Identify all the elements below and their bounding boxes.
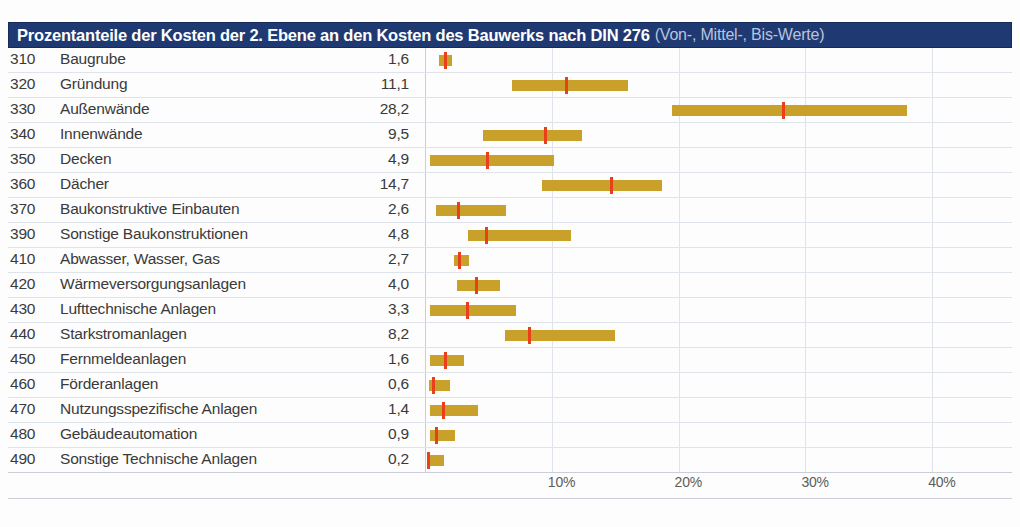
- table-row[interactable]: 330Außenwände28,2: [8, 98, 1012, 123]
- row-code: 430: [10, 300, 52, 318]
- range-bar: [672, 105, 907, 116]
- gridline-zero: [425, 73, 426, 97]
- row-code: 460: [10, 375, 52, 393]
- gridline-40: [932, 448, 933, 472]
- mean-marker: [610, 177, 613, 194]
- gridline-zero: [425, 123, 426, 147]
- table-row[interactable]: 390Sonstige Baukonstruktionen4,8: [8, 223, 1012, 248]
- table-row[interactable]: 310Baugrube1,6: [8, 48, 1012, 73]
- table-row[interactable]: 470Nutzungsspezifische Anlagen1,4: [8, 398, 1012, 423]
- table-row[interactable]: 430Lufttechnische Anlagen3,3: [8, 298, 1012, 323]
- gridline-10: [552, 398, 553, 422]
- row-code: 310: [10, 50, 52, 68]
- row-value: 0,2: [308, 450, 409, 468]
- row-plot-cell: [417, 448, 1012, 472]
- table-row[interactable]: 460Förderanlagen0,6: [8, 373, 1012, 398]
- gridline-10: [552, 98, 553, 122]
- table-row[interactable]: 480Gebäudeautomation0,9: [8, 423, 1012, 448]
- range-bar: [468, 230, 571, 241]
- mean-marker: [458, 252, 461, 269]
- gridline-zero: [425, 198, 426, 222]
- row-plot-cell: [417, 273, 1012, 297]
- row-value: 1,6: [308, 350, 409, 368]
- x-tick-label-10: 10%: [548, 474, 575, 490]
- row-value: 2,6: [308, 200, 409, 218]
- gridline-30: [805, 298, 806, 322]
- mean-marker: [432, 377, 435, 394]
- mean-marker: [442, 402, 445, 419]
- row-code: 360: [10, 175, 52, 193]
- gridline-zero: [425, 398, 426, 422]
- row-value: 8,2: [308, 325, 409, 343]
- gridline-30: [805, 223, 806, 247]
- gridline-10: [552, 298, 553, 322]
- table-row[interactable]: 340Innenwände9,5: [8, 123, 1012, 148]
- gridline-20: [679, 148, 680, 172]
- gridline-10: [552, 373, 553, 397]
- range-bar: [483, 130, 582, 141]
- row-code: 330: [10, 100, 52, 118]
- gridline-zero: [425, 373, 426, 397]
- chart-title-main: Prozentanteile der Kosten der 2. Ebene a…: [17, 26, 650, 45]
- row-plot-cell: [417, 423, 1012, 447]
- table-row[interactable]: 360Dächer14,7: [8, 173, 1012, 198]
- gridline-30: [805, 48, 806, 72]
- row-plot-cell: [417, 73, 1012, 97]
- gridline-40: [932, 398, 933, 422]
- range-bar: [430, 155, 554, 166]
- table-row[interactable]: 370Baukonstruktive Einbauten2,6: [8, 198, 1012, 223]
- gridline-40: [932, 348, 933, 372]
- row-value: 4,0: [308, 275, 409, 293]
- gridline-zero: [425, 98, 426, 122]
- gridline-40: [932, 323, 933, 347]
- gridline-40: [932, 48, 933, 72]
- row-plot-cell: [417, 198, 1012, 222]
- gridline-40: [932, 73, 933, 97]
- row-code: 410: [10, 250, 52, 268]
- row-value: 4,8: [308, 225, 409, 243]
- gridline-30: [805, 123, 806, 147]
- gridline-zero: [425, 423, 426, 447]
- mean-marker: [444, 352, 447, 369]
- gridline-zero: [425, 248, 426, 272]
- gridline-40: [932, 273, 933, 297]
- gridline-10: [552, 48, 553, 72]
- gridline-30: [805, 448, 806, 472]
- gridline-30: [805, 248, 806, 272]
- table-row[interactable]: 420Wärmeversorgungsanlagen4,0: [8, 273, 1012, 298]
- gridline-20: [679, 323, 680, 347]
- gridline-10: [552, 448, 553, 472]
- row-plot-cell: [417, 98, 1012, 122]
- table-row[interactable]: 490Sonstige Technische Anlagen0,2: [8, 448, 1012, 473]
- table-row[interactable]: 450Fernmeldeanlagen1,6: [8, 348, 1012, 373]
- gridline-10: [552, 423, 553, 447]
- row-value: 1,4: [308, 400, 409, 418]
- row-plot-cell: [417, 323, 1012, 347]
- table-row[interactable]: 410Abwasser, Wasser, Gas2,7: [8, 248, 1012, 273]
- table-row[interactable]: 350Decken4,9: [8, 148, 1012, 173]
- row-plot-cell: [417, 298, 1012, 322]
- row-code: 370: [10, 200, 52, 218]
- row-plot-cell: [417, 248, 1012, 272]
- gridline-40: [932, 148, 933, 172]
- gridline-zero: [425, 48, 426, 72]
- gridline-40: [932, 223, 933, 247]
- table-row[interactable]: 440Starkstromanlagen8,2: [8, 323, 1012, 348]
- gridline-20: [679, 423, 680, 447]
- row-value: 3,3: [308, 300, 409, 318]
- row-value: 9,5: [308, 125, 409, 143]
- mean-marker: [435, 427, 438, 444]
- gridline-10: [552, 348, 553, 372]
- gridline-20: [679, 373, 680, 397]
- row-value: 2,7: [308, 250, 409, 268]
- x-tick-label-20: 20%: [675, 474, 702, 490]
- gridline-20: [679, 273, 680, 297]
- table-row[interactable]: 320Gründung11,1: [8, 73, 1012, 98]
- row-code: 480: [10, 425, 52, 443]
- gridline-zero: [425, 148, 426, 172]
- gridline-40: [932, 173, 933, 197]
- gridline-20: [679, 223, 680, 247]
- chart-rows-container: 310Baugrube1,6320Gründung11,1330Außenwän…: [8, 48, 1012, 498]
- gridline-10: [552, 248, 553, 272]
- range-bar: [542, 180, 662, 191]
